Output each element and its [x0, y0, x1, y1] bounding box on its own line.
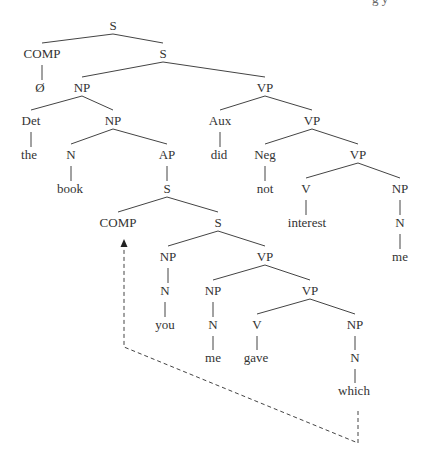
tree-node-vp4: VP — [257, 250, 274, 264]
tree-edge — [113, 129, 167, 144]
tree-edge — [312, 129, 358, 144]
tree-node-s1: S — [159, 47, 166, 61]
tree-edge — [257, 299, 310, 314]
tree-node-np2: NP — [105, 114, 122, 128]
tree-edge — [265, 96, 312, 110]
tree-edge — [358, 163, 400, 178]
tree-edge — [306, 163, 358, 178]
tree-node-gave: gave — [244, 351, 269, 365]
tree-edge — [82, 96, 113, 110]
tree-node-you: you — [155, 318, 175, 332]
movement-arrow — [121, 239, 359, 443]
tree-node-aux: Aux — [209, 114, 231, 128]
tree-node-s3: S — [214, 216, 221, 230]
tree-node-the: the — [21, 148, 37, 162]
tree-node-vp1: VP — [257, 81, 274, 95]
tree-node-np5: NP — [347, 318, 364, 332]
tree-node-empty: Ø — [35, 81, 44, 95]
tree-edge — [163, 62, 265, 77]
tree-node-book: book — [57, 182, 83, 196]
tree-node-not: not — [257, 182, 274, 196]
arrowhead-icon — [121, 239, 128, 247]
tree-node-which: which — [338, 384, 370, 398]
tree-node-comp2: COMP — [100, 216, 137, 230]
tree-edge — [168, 231, 218, 246]
tree-edge — [218, 231, 265, 246]
tree-node-neg: Neg — [254, 148, 276, 162]
tree-node-np3: NP — [160, 250, 177, 264]
tree-edge — [82, 62, 163, 77]
tree-node-v1: V — [301, 182, 310, 196]
tree-node-me2: me — [205, 351, 221, 365]
tree-edge — [31, 96, 82, 110]
tree-node-np1: NP — [74, 81, 91, 95]
tree-node-s0: S — [109, 19, 116, 33]
tree-node-n3: N — [208, 318, 217, 332]
tree-node-n2: N — [160, 284, 169, 298]
tree-node-n4: N — [350, 351, 359, 365]
tree-node-did: did — [211, 148, 228, 162]
tree-edge — [71, 129, 113, 144]
tree-node-det: Det — [22, 114, 41, 128]
tree-edge — [213, 265, 265, 280]
tree-edge — [42, 34, 113, 43]
tree-node-comp1: COMP — [24, 47, 61, 61]
tree-node-np4: NP — [205, 284, 222, 298]
tree-node-n5: N — [395, 216, 404, 230]
tree-edge — [220, 96, 265, 110]
tree-node-interest: interest — [288, 216, 326, 230]
tree-node-vp5: VP — [302, 284, 319, 298]
tree-node-n1: N — [66, 148, 75, 162]
tree-edge — [167, 197, 218, 212]
tree-node-vp2: VP — [304, 114, 321, 128]
tree-edge — [265, 265, 310, 280]
tree-node-vp3: VP — [350, 148, 367, 162]
tree-node-np6: NP — [392, 182, 409, 196]
tree-edge — [265, 129, 312, 144]
tree-node-me1: me — [392, 250, 408, 264]
tree-edge — [113, 34, 163, 43]
tree-edge — [310, 299, 355, 314]
tree-edge — [118, 197, 167, 212]
dashed-movement-line — [124, 246, 358, 443]
tree-node-ap: AP — [159, 148, 176, 162]
tree-node-s2: S — [163, 182, 170, 196]
tree-node-v2: V — [252, 318, 261, 332]
